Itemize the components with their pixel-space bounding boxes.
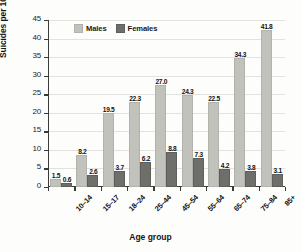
legend-item-females: Females xyxy=(116,24,158,33)
bar-value-label: 41.8 xyxy=(256,23,278,30)
bar-males-18–24: 19.5 xyxy=(103,113,114,187)
x-tick-mark xyxy=(48,187,49,191)
bar-chart: Suicides per 100,000 051015202530354045 … xyxy=(0,0,301,252)
x-tick-label-25–44: 25–44 xyxy=(153,193,173,213)
bar-group: 1.50.6 xyxy=(48,20,74,187)
bar-group: 22.36.2 xyxy=(127,20,153,187)
bar-females-65–74: 4.2 xyxy=(219,169,230,187)
x-axis-title: Age group xyxy=(0,232,301,242)
bar-group: 22.54.2 xyxy=(206,20,232,187)
y-tick-label: 35 xyxy=(33,51,42,60)
y-tick-label: 15 xyxy=(33,125,42,134)
y-tick-label: 20 xyxy=(33,107,42,116)
bar-value-label: 24.3 xyxy=(177,88,199,95)
bar-females-18–24: 3.7 xyxy=(114,171,125,187)
y-tick-label: 5 xyxy=(37,162,41,171)
x-tick-mark xyxy=(259,187,260,191)
x-tick-mark xyxy=(127,187,128,191)
legend-label-males: Males xyxy=(86,24,107,33)
bar-value-label: 19.5 xyxy=(98,106,120,113)
bar-group: 24.37.3 xyxy=(180,20,206,187)
bar-group: 19.53.7 xyxy=(101,20,127,187)
legend-swatch-females-icon xyxy=(116,24,125,33)
y-tick-label: 10 xyxy=(33,144,42,153)
x-tick-mark xyxy=(206,187,207,191)
y-tick-label: 40 xyxy=(33,33,42,42)
bar-females-55–64: 7.3 xyxy=(193,158,204,187)
bar-females-45–54: 8.8 xyxy=(166,152,177,187)
x-tick-mark xyxy=(101,187,102,191)
y-axis-ticks: 051015202530354045 xyxy=(0,20,48,187)
bar-females-75–84: 3.8 xyxy=(245,171,256,187)
legend-label-females: Females xyxy=(128,24,158,33)
legend: Males Females xyxy=(74,24,157,33)
x-tick-mark xyxy=(285,187,286,191)
bar-males-85+: 41.8 xyxy=(261,30,272,187)
bar-value-label: 22.5 xyxy=(203,95,225,102)
y-tick-label: 25 xyxy=(33,88,42,97)
bar-males-55–64: 24.3 xyxy=(182,95,193,187)
x-tick-mark xyxy=(74,187,75,191)
bar-value-label: 8.2 xyxy=(71,148,93,155)
x-tick-label-65–74: 65–74 xyxy=(232,193,252,213)
bar-females-25–44: 6.2 xyxy=(140,162,151,187)
x-tick-label-18–24: 18–24 xyxy=(127,193,147,213)
x-tick-label-15–17: 15–17 xyxy=(100,193,120,213)
legend-item-males: Males xyxy=(74,24,107,33)
x-tick-mark xyxy=(232,187,233,191)
y-tick-label: 30 xyxy=(33,70,42,79)
bar-females-85+: 3.1 xyxy=(272,174,283,188)
bar-group: 8.22.6 xyxy=(74,20,100,187)
x-tick-mark xyxy=(153,187,154,191)
x-tick-label-45–54: 45–54 xyxy=(179,193,199,213)
bar-value-label: 3.1 xyxy=(267,167,289,174)
legend-swatch-males-icon xyxy=(74,24,83,33)
bar-group: 34.33.8 xyxy=(232,20,258,187)
y-tick-label: 0 xyxy=(37,181,41,190)
y-tick-label: 45 xyxy=(33,14,42,23)
bar-females-15–17: 2.6 xyxy=(87,175,98,187)
x-tick-label-75–84: 75–84 xyxy=(258,193,278,213)
x-tick-label-55–64: 55–64 xyxy=(206,193,226,213)
bar-group: 41.83.1 xyxy=(259,20,285,187)
bar-males-45–54: 27.0 xyxy=(155,85,166,187)
bars-layer: 1.50.68.22.619.53.722.36.227.08.824.37.3… xyxy=(48,20,285,187)
bar-value-label: 22.3 xyxy=(124,95,146,102)
x-tick-label-85+: 85+ xyxy=(282,193,297,208)
bar-males-25–44: 22.3 xyxy=(129,102,140,187)
bar-value-label: 34.3 xyxy=(229,51,251,58)
x-tick-label-10–14: 10–14 xyxy=(74,193,94,213)
bar-value-label: 27.0 xyxy=(150,78,172,85)
x-tick-mark xyxy=(180,187,181,191)
bar-males-65–74: 22.5 xyxy=(208,102,219,188)
bar-group: 27.08.8 xyxy=(153,20,179,187)
x-axis-ticks: 10–1415–1718–2425–4445–5455–6465–7475–84… xyxy=(48,187,285,237)
